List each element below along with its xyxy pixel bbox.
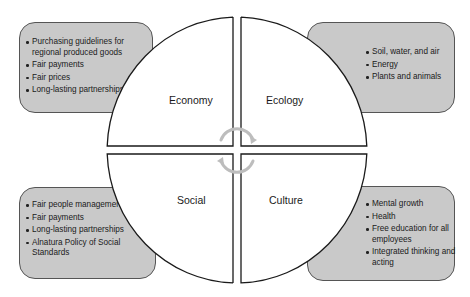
economy-label: Economy <box>169 94 213 106</box>
economy-quadrant <box>107 17 233 146</box>
ecology-label: Ecology <box>266 94 303 106</box>
culture-quadrant <box>241 154 367 283</box>
social-quadrant <box>107 154 233 283</box>
quadrant-wheel <box>0 0 470 297</box>
ecology-quadrant <box>241 17 367 146</box>
culture-label: Culture <box>269 194 303 206</box>
social-label: Social <box>177 194 206 206</box>
